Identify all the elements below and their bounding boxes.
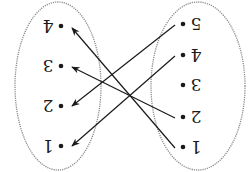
element-label: 2 — [43, 96, 54, 116]
arrow-1-to-4 — [72, 28, 175, 148]
element-dot — [59, 144, 64, 149]
element-dot — [181, 53, 186, 58]
element-label: 1 — [191, 137, 202, 157]
diagram-canvas: 4321 54321 — [0, 0, 250, 172]
element-dot — [59, 104, 64, 109]
element-dot — [181, 83, 186, 88]
arrow-4-to-1 — [72, 56, 175, 146]
element-label: 2 — [191, 107, 202, 127]
left-element-4: 4 — [43, 16, 64, 36]
left-set-ellipse — [15, 2, 101, 170]
element-label: 5 — [191, 14, 202, 34]
right-element-2: 2 — [181, 107, 202, 127]
mapping-diagram: 4321 54321 — [0, 0, 250, 172]
element-dot — [181, 145, 186, 150]
right-set-elements: 54321 — [181, 14, 202, 157]
element-label: 4 — [43, 16, 54, 36]
element-label: 1 — [43, 136, 54, 156]
right-element-4: 4 — [181, 45, 202, 65]
element-dot — [59, 64, 64, 69]
left-element-3: 3 — [43, 56, 64, 76]
element-label: 4 — [191, 45, 202, 65]
mapping-arrows — [72, 25, 175, 148]
arrow-5-to-2 — [72, 25, 175, 106]
right-element-3: 3 — [181, 75, 202, 95]
arrow-2-to-3 — [72, 67, 175, 118]
left-element-1: 1 — [43, 136, 64, 156]
left-set-elements: 4321 — [43, 16, 64, 156]
right-element-1: 1 — [181, 137, 202, 157]
element-dot — [181, 115, 186, 120]
element-label: 3 — [191, 75, 202, 95]
element-dot — [59, 24, 64, 29]
left-element-2: 2 — [43, 96, 64, 116]
element-label: 3 — [43, 56, 54, 76]
right-element-5: 5 — [181, 14, 202, 34]
element-dot — [181, 22, 186, 27]
